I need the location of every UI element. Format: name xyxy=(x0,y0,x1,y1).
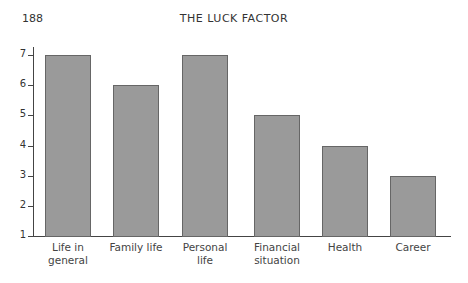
y-tick xyxy=(28,115,33,116)
y-tick-label: 2 xyxy=(12,199,26,210)
y-tick-label: 5 xyxy=(12,108,26,119)
bar xyxy=(390,176,436,237)
y-tick-label: 6 xyxy=(12,78,26,89)
x-axis xyxy=(33,236,451,237)
bar xyxy=(322,146,368,238)
y-tick xyxy=(28,85,33,86)
y-tick-label: 3 xyxy=(12,169,26,180)
x-tick-label: Career xyxy=(373,241,453,254)
bar xyxy=(113,85,159,237)
bar xyxy=(254,115,300,237)
y-tick xyxy=(28,176,33,177)
y-tick xyxy=(28,55,33,56)
y-tick-label: 7 xyxy=(12,48,26,59)
x-tick-label: Personallife xyxy=(165,241,245,267)
bar xyxy=(182,55,228,237)
y-tick-label: 1 xyxy=(12,229,26,240)
y-tick xyxy=(28,206,33,207)
y-axis xyxy=(33,47,34,237)
y-tick-label: 4 xyxy=(12,139,26,150)
bar xyxy=(45,55,91,237)
y-tick xyxy=(28,236,33,237)
bar-chart: 1234567 Life ingeneralFamily lifePersona… xyxy=(0,0,468,283)
x-tick-label: Family life xyxy=(96,241,176,254)
y-tick xyxy=(28,146,33,147)
